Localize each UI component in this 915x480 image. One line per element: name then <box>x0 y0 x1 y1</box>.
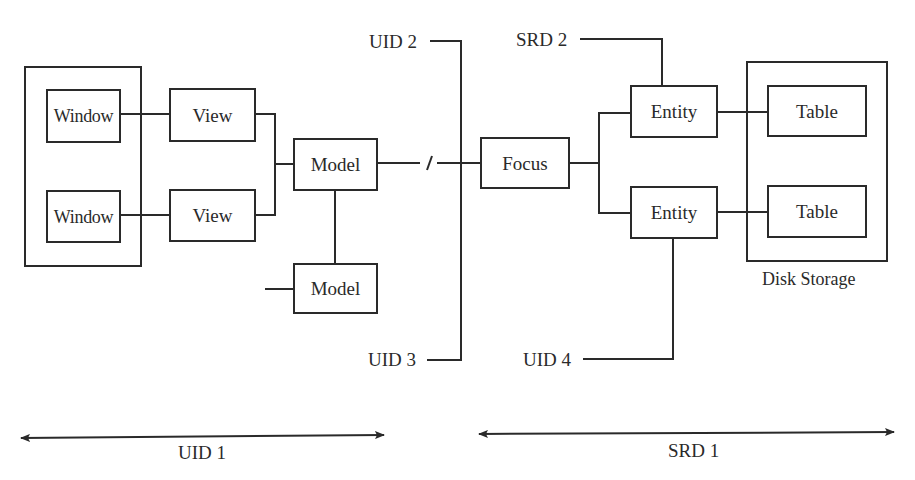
edge-srd2-entity1 <box>580 39 662 86</box>
entity-node-1: Entity <box>630 85 718 138</box>
entity-node-2-label: Entity <box>651 203 697 222</box>
view-node-1-label: View <box>192 106 232 125</box>
window-node-2: Window <box>46 190 121 243</box>
table-node-1-label: Table <box>796 102 838 121</box>
srd1-span-label: SRD 1 <box>668 441 719 460</box>
model-node-1: Model <box>293 138 378 191</box>
uid1-span-arrow <box>21 435 384 438</box>
view-node-2: View <box>169 189 256 242</box>
table-node-1: Table <box>767 85 867 137</box>
table-node-2-label: Table <box>796 202 838 221</box>
srd1-span-arrow <box>479 432 894 434</box>
boundary-bus-uid2-uid3 <box>427 41 461 360</box>
uid4-label: UID 4 <box>523 350 571 369</box>
entity-node-1-label: Entity <box>651 102 697 121</box>
broken-link-slash <box>427 156 432 170</box>
uid2-label: UID 2 <box>369 32 417 51</box>
edge-focus-entities <box>599 113 631 213</box>
focus-node-label: Focus <box>502 154 547 173</box>
focus-node: Focus <box>480 137 570 189</box>
model-node-2: Model <box>293 263 378 314</box>
window-node-1: Window <box>46 89 121 143</box>
model-node-2-label: Model <box>311 279 361 298</box>
view-node-1: View <box>169 88 256 142</box>
disk-storage-label: Disk Storage <box>762 270 856 288</box>
srd2-label: SRD 2 <box>516 30 567 49</box>
edge-views-model1 <box>255 114 275 215</box>
window-node-2-label: Window <box>54 208 113 226</box>
view-node-2-label: View <box>192 206 232 225</box>
uid3-label: UID 3 <box>368 350 416 369</box>
window-node-1-label: Window <box>54 107 113 125</box>
uid1-span-label: UID 1 <box>178 443 226 462</box>
table-node-2: Table <box>767 185 867 238</box>
edge-entity2-uid4 <box>583 238 673 359</box>
model-node-1-label: Model <box>311 155 361 174</box>
entity-node-2: Entity <box>630 186 718 239</box>
